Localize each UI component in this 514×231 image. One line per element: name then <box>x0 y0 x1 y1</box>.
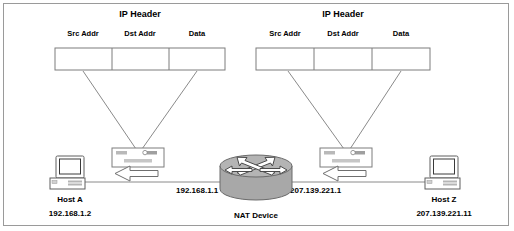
nat-diagram-figure: IP Header Src Addr Dst Addr Data 192.168… <box>0 0 514 231</box>
diagram-graphics-layer <box>0 0 514 231</box>
left-packet-header-table <box>55 48 225 70</box>
left-flow-arrow <box>115 166 158 181</box>
right-packet-icon <box>320 148 372 167</box>
left-packet-callout-lines <box>83 71 197 149</box>
router-icon <box>220 155 292 200</box>
host-z-computer-icon <box>425 156 460 189</box>
host-a-computer-icon <box>50 156 85 189</box>
left-packet-icon <box>112 148 164 167</box>
right-flow-arrow <box>323 166 366 181</box>
right-packet-header-table <box>256 48 430 70</box>
right-packet-callout-lines <box>288 71 401 149</box>
